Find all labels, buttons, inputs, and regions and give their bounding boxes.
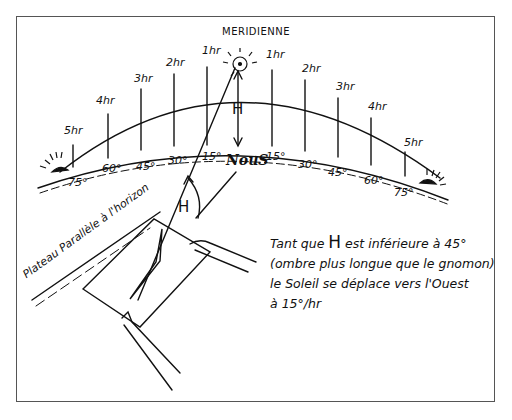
degree-label-left-75: 75°	[68, 176, 88, 189]
sunrise-icon	[40, 152, 68, 172]
hour-label-left-2: 2hr	[166, 56, 185, 69]
hour-label-right-4: 4hr	[368, 100, 387, 113]
explanation-note: Tant que H est inférieure à 45° (ombre p…	[270, 232, 495, 314]
hour-label-left-3: 3hr	[134, 72, 153, 85]
observer-label: NouS	[226, 152, 268, 168]
note-line-1: Tant que H est inférieure à 45°	[270, 232, 495, 254]
hour-label-right-3: 3hr	[336, 80, 355, 93]
sun-icon	[223, 48, 257, 76]
degree-label-right-60: 60°	[364, 174, 384, 187]
degree-label-left-15: 15°	[202, 150, 222, 163]
hour-label-left-4: 4hr	[96, 94, 115, 107]
note-line-2: (ombre plus longue que le gnomon)	[270, 254, 495, 274]
meridienne-label: MERIDIENNE	[222, 26, 290, 37]
degree-label-right-45: 45°	[328, 166, 348, 179]
hour-label-right-5: 5hr	[404, 136, 423, 149]
degree-label-left-45: 45°	[136, 160, 156, 173]
degree-label-right-30: 30°	[298, 158, 318, 171]
degree-label-right-15: 15°	[266, 150, 286, 163]
hour-label-right-2: 2hr	[302, 62, 321, 75]
note-line-4: à 15°/hr	[270, 294, 495, 314]
hour-label-right-1: 1hr	[266, 48, 285, 61]
sun-ray	[138, 68, 235, 300]
angle-label: H	[178, 198, 189, 216]
degree-label-left-30: 30°	[168, 154, 188, 167]
sun-path-illustration	[0, 0, 512, 420]
hour-label-left-1: 1hr	[202, 44, 221, 57]
degree-label-right-75: 75°	[394, 186, 414, 199]
board	[83, 219, 210, 327]
gnomon	[130, 229, 162, 299]
hour-label-left-5: 5hr	[64, 124, 83, 137]
altitude-label: H	[232, 100, 243, 118]
degree-label-left-60: 60°	[102, 162, 122, 175]
sunset-icon	[420, 169, 446, 185]
note-line-3: le Soleil se déplace vers l'Ouest	[270, 274, 495, 294]
